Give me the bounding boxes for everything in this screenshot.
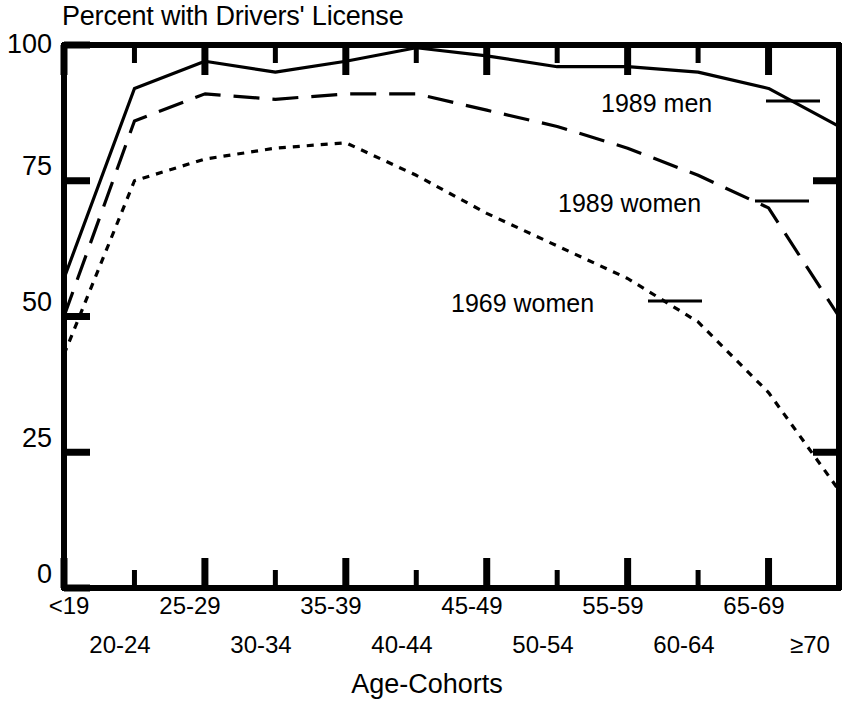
chart-title: Percent with Drivers' License [62, 1, 403, 31]
y-tick-label-100: 100 [0, 31, 52, 58]
x-tick-label-40-44: 40-44 [346, 632, 458, 658]
x-tick-label-45-49: 45-49 [416, 593, 528, 619]
x-tick-label-lt19: <19 [24, 593, 114, 619]
data-series-group [64, 48, 839, 491]
series-line-1989-men [64, 48, 839, 279]
x-tick-label-30-34: 30-34 [205, 632, 317, 658]
series-line-1989-women [64, 94, 839, 317]
x-tick-label-20-24: 20-24 [64, 632, 176, 658]
y-tick-label-75: 75 [0, 153, 52, 180]
y-tick-label-0: 0 [0, 561, 52, 588]
x-tick-label-35-39: 35-39 [275, 593, 387, 619]
x-axis-title: Age-Cohorts [0, 668, 854, 700]
x-tick-label-65-69: 65-69 [698, 593, 810, 619]
legend-label-1989-women: 1989 women [558, 190, 701, 217]
x-tick-label-60-64: 60-64 [628, 632, 740, 658]
y-tick-label-50: 50 [0, 289, 52, 316]
x-tick-label-50-54: 50-54 [487, 632, 599, 658]
chart-figure: Percent with Drivers' License 100 75 50 … [0, 0, 854, 707]
y-tick-label-25: 25 [0, 425, 52, 452]
x-tick-label-ge70: ≥70 [766, 632, 854, 658]
x-tick-marks-bottom [64, 558, 839, 588]
legend-label-1969-women: 1969 women [451, 290, 594, 317]
x-tick-label-25-29: 25-29 [134, 593, 246, 619]
x-tick-label-55-59: 55-59 [557, 593, 669, 619]
legend-label-1989-men: 1989 men [601, 90, 712, 117]
